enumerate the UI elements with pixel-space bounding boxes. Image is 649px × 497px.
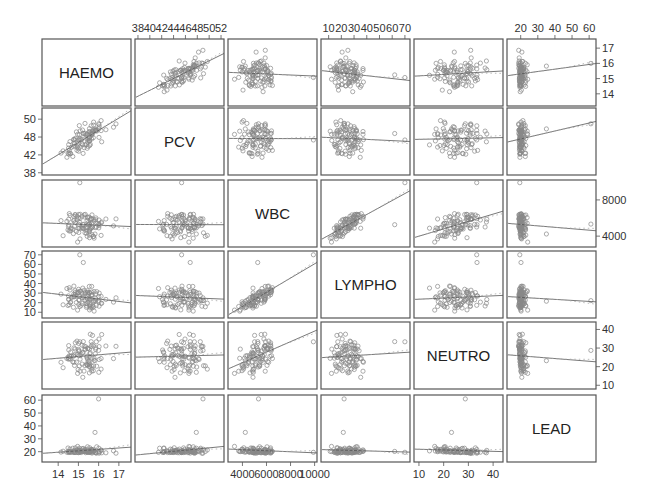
data-point xyxy=(544,232,548,236)
data-point xyxy=(263,56,267,60)
panel-pcv-vs-lead xyxy=(507,108,596,175)
tick-label: 38 xyxy=(24,167,36,179)
top-axis-lympho: 10203040506070 xyxy=(323,22,412,39)
tick-label: 48 xyxy=(191,22,203,34)
panel-neutro-vs-haemo xyxy=(42,322,131,389)
data-point xyxy=(518,181,522,185)
data-point xyxy=(544,299,548,303)
panel-pcv-vs-neutro xyxy=(414,108,503,175)
data-point xyxy=(232,132,236,136)
data-point xyxy=(346,48,350,52)
diagonal-panel-lympho: LYMPHO xyxy=(321,251,410,318)
data-point xyxy=(544,359,548,363)
data-point xyxy=(476,148,480,152)
diagonal-panel-neutro: NEUTRO xyxy=(414,322,503,389)
tick-label: 16 xyxy=(93,468,105,480)
tick-label: 60 xyxy=(24,394,36,406)
data-point xyxy=(263,48,267,52)
top-axis-lead: 2030405060 xyxy=(515,22,596,39)
data-point xyxy=(81,151,85,155)
tick-label: 60 xyxy=(583,22,595,34)
data-point xyxy=(188,260,192,264)
data-point xyxy=(483,225,487,229)
data-point xyxy=(199,76,203,80)
data-point xyxy=(203,65,207,69)
data-point xyxy=(67,344,71,348)
data-point xyxy=(334,369,338,373)
data-point xyxy=(403,340,407,344)
data-point xyxy=(469,48,473,52)
tick-label: 30 xyxy=(348,22,360,34)
data-point xyxy=(104,217,108,221)
panel-haemo-vs-neutro xyxy=(414,39,503,106)
data-point xyxy=(232,77,236,81)
data-point xyxy=(173,84,177,88)
tick-label: 8000 xyxy=(602,194,626,206)
panel-neutro-vs-lead xyxy=(507,322,596,389)
data-point xyxy=(194,232,198,236)
tick-label: 46 xyxy=(179,22,191,34)
scatterplot-matrix: HAEMOPCVWBCLYMPHONEUTROLEAD3840424446485… xyxy=(0,0,649,497)
panel-pcv-vs-wbc xyxy=(228,108,317,175)
data-point xyxy=(238,356,242,360)
panel-lead-vs-neutro xyxy=(414,395,503,462)
data-point xyxy=(237,75,241,79)
data-point xyxy=(253,340,257,344)
data-point xyxy=(330,138,334,142)
tick-label: 10000 xyxy=(299,468,330,480)
variable-label: LYMPHO xyxy=(334,276,396,293)
right-axis-neutro: 10203040 xyxy=(596,323,614,391)
tick-label: 30 xyxy=(602,342,614,354)
data-point xyxy=(351,151,355,155)
panel-pcv-vs-lympho xyxy=(321,108,410,175)
tick-label: 20 xyxy=(335,22,347,34)
data-point xyxy=(433,139,437,143)
data-point xyxy=(336,340,340,344)
panel-haemo-vs-pcv xyxy=(135,39,224,106)
panel-pcv-vs-haemo xyxy=(42,108,131,175)
diagonal-panel-wbc: WBC xyxy=(228,180,317,247)
tick-label: 15 xyxy=(602,73,614,85)
data-point xyxy=(484,140,488,144)
data-point xyxy=(484,220,488,224)
data-point xyxy=(344,56,348,60)
tick-label: 44 xyxy=(167,22,179,34)
bottom-axis-wbc: 40006000800010000 xyxy=(230,462,330,480)
data-point xyxy=(518,253,522,257)
data-point xyxy=(156,286,160,290)
tick-label: 50 xyxy=(203,22,215,34)
data-point xyxy=(251,375,255,379)
data-point xyxy=(452,50,456,54)
panel-lympho-vs-pcv xyxy=(135,251,224,318)
data-point xyxy=(520,375,524,379)
data-point xyxy=(201,72,205,76)
tick-label: 50 xyxy=(373,22,385,34)
data-point xyxy=(177,59,181,63)
data-point xyxy=(94,340,98,344)
data-point xyxy=(100,140,104,144)
data-point xyxy=(243,127,247,131)
panel-haemo-vs-wbc xyxy=(228,39,317,106)
data-point xyxy=(100,332,104,336)
tick-label: 30 xyxy=(462,468,474,480)
data-point xyxy=(92,123,96,127)
tick-label: 14 xyxy=(52,468,64,480)
data-point xyxy=(334,120,338,124)
tick-label: 4000 xyxy=(230,468,254,480)
tick-label: 50 xyxy=(24,113,36,125)
data-point xyxy=(83,121,87,125)
data-point xyxy=(438,59,442,63)
panel-wbc-vs-lympho xyxy=(321,180,410,247)
data-point xyxy=(359,226,363,230)
data-point xyxy=(589,348,593,352)
data-point xyxy=(403,181,407,185)
data-point xyxy=(72,346,76,350)
panel-lympho-vs-haemo xyxy=(42,251,131,318)
data-point xyxy=(589,222,593,226)
data-point xyxy=(241,149,245,153)
variable-label: HAEMO xyxy=(59,64,114,81)
panel-wbc-vs-neutro xyxy=(414,180,503,247)
data-point xyxy=(341,430,345,434)
data-point xyxy=(201,231,205,235)
tick-label: 10 xyxy=(602,379,614,391)
